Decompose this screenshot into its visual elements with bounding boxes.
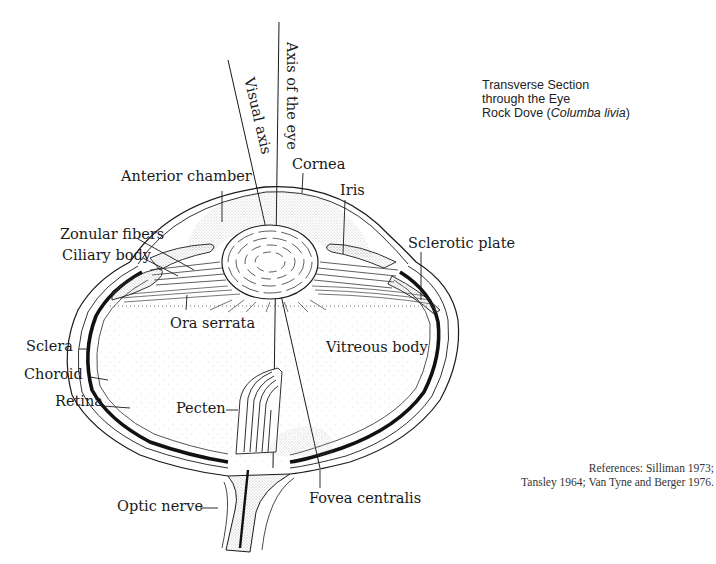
species-name: Columba livia [551, 106, 626, 120]
label-pecten: Pecten [176, 401, 226, 416]
label-fovea-centralis: Fovea centralis [309, 491, 421, 506]
label-sclera: Sclera [26, 339, 73, 354]
title-line-2: through the Eye [482, 92, 630, 106]
label-retina: Retina [55, 394, 103, 409]
label-vitreous-body: Vitreous body [326, 340, 428, 355]
references: References: Silliman 1973; Tansley 1964;… [521, 461, 714, 489]
lens [222, 225, 318, 299]
optic-nerve [226, 474, 290, 552]
references-line-1: References: Silliman 1973; [521, 461, 714, 475]
title-line-3: Rock Dove (Columba livia) [482, 106, 630, 120]
label-cornea: Cornea [292, 157, 345, 172]
label-zonular-fibers: Zonular fibers [60, 227, 164, 242]
title-line-1: Transverse Section [482, 78, 630, 92]
label-anterior-chamber: Anterior chamber [121, 169, 252, 184]
label-iris: Iris [340, 183, 365, 198]
label-choroid: Choroid [24, 367, 83, 382]
label-ora-serrata: Ora serrata [170, 316, 255, 331]
label-ciliary-body: Ciliary body [62, 248, 151, 263]
eye-axis-label: Axis of the eye [285, 42, 300, 150]
diagram-title: Transverse Section through the Eye Rock … [482, 78, 630, 120]
references-line-2: Tansley 1964; Van Tyne and Berger 1976. [521, 475, 714, 489]
cornea-leader [302, 173, 303, 193]
label-sclerotic-plate: Sclerotic plate [408, 236, 515, 251]
label-optic-nerve: Optic nerve [117, 499, 203, 514]
